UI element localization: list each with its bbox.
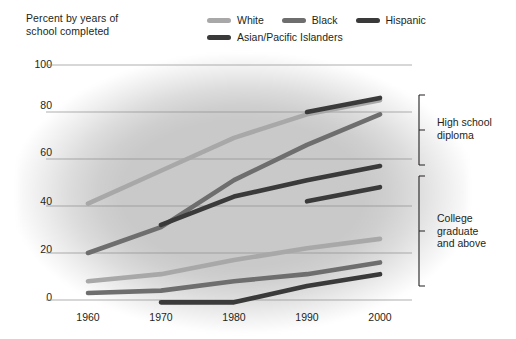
series-line-college-graduate-and-above-asian-pacific-islanders [307,187,380,201]
bracket-college [419,176,425,286]
chart-page: Percent by years of school completed Whi… [0,0,516,339]
data-lines [88,98,380,302]
series-line-college-graduate-and-above-white [88,239,380,281]
series-line-high-school-diploma-asian-pacific-islanders [307,98,380,112]
series-line-high-school-diploma-white [88,100,380,203]
bracket-high-school [419,95,425,165]
chart-svg [0,0,516,339]
bracket-marks [419,95,425,286]
